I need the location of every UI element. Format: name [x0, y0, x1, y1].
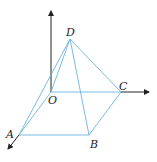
label-A: A — [5, 128, 14, 141]
edge-BC — [89, 92, 121, 135]
pyramid-diagram: D O C A B — [0, 0, 157, 162]
label-C: C — [119, 80, 128, 93]
edge-DC — [70, 39, 121, 92]
edge-OA — [19, 92, 51, 135]
label-B: B — [89, 138, 98, 151]
label-O: O — [48, 94, 57, 107]
edge-DO — [51, 39, 70, 92]
label-D: D — [65, 26, 75, 39]
edge-DB — [70, 39, 89, 135]
edge-DA — [19, 39, 70, 135]
